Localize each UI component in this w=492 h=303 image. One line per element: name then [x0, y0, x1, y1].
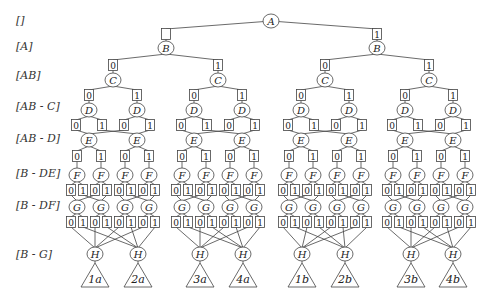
node-label: E — [400, 135, 409, 146]
node-label: E — [189, 135, 198, 146]
value-label: 1 — [420, 218, 426, 228]
value-label: 1 — [414, 152, 420, 162]
edge — [453, 227, 471, 248]
value-label: 0 — [110, 61, 116, 71]
value-label: 0 — [280, 186, 286, 196]
value-label: 1 — [185, 186, 191, 196]
value-label: 1 — [209, 186, 215, 196]
node-label: E — [84, 135, 93, 146]
value-label: 1 — [340, 218, 346, 228]
value-label: 0 — [227, 152, 233, 162]
node-label: F — [413, 170, 422, 181]
value-label: 1 — [257, 218, 263, 228]
value-label: 1 — [358, 152, 364, 162]
node-label: H — [90, 249, 100, 260]
value-label: 0 — [432, 218, 438, 228]
leaf-label: 2a — [130, 273, 145, 286]
value-label: 0 — [438, 152, 444, 162]
value-label: 1 — [346, 91, 352, 101]
node-label: F — [73, 170, 82, 181]
node-label: D — [400, 105, 409, 116]
value-label: 1 — [233, 186, 239, 196]
value-label: 1 — [203, 152, 209, 162]
leaf-label: 3a — [193, 273, 207, 286]
value-label: 0 — [437, 121, 443, 131]
value-label: 1 — [359, 121, 365, 131]
value-label: 1 — [463, 121, 469, 131]
node-label: F — [357, 170, 366, 181]
edge — [200, 227, 248, 248]
node-label: H — [340, 249, 350, 260]
value-label: 0 — [298, 91, 304, 101]
value-label: 1 — [204, 121, 210, 131]
value-label: 1 — [420, 186, 426, 196]
value-label: 1 — [292, 218, 298, 228]
node-label: C — [214, 75, 222, 86]
value-label: 1 — [80, 186, 86, 196]
leaf-label: 2b — [337, 273, 352, 286]
value-label: 0 — [221, 186, 227, 196]
node-label: G — [285, 202, 293, 213]
node-label: D — [448, 105, 457, 116]
edge — [243, 227, 260, 248]
edge — [166, 21, 271, 29]
edge — [377, 54, 429, 60]
value-label: 1 — [364, 218, 370, 228]
node-label: E — [344, 135, 353, 146]
value-label: 0 — [173, 218, 179, 228]
node-label: H — [406, 249, 416, 260]
value-label: 1 — [99, 121, 105, 131]
edge — [325, 54, 377, 60]
value-label: 0 — [384, 218, 390, 228]
tree-diagram: [][A][AB][AB - C][AB - D][B - DE][B - DF… — [0, 0, 492, 303]
value-label: 1 — [185, 218, 191, 228]
value-label: 0 — [286, 152, 292, 162]
value-label: 1 — [310, 152, 316, 162]
node-label: D — [189, 105, 198, 116]
edge — [319, 227, 345, 248]
node-label: G — [389, 202, 397, 213]
value-label: 1 — [415, 121, 421, 131]
node-label: F — [97, 170, 106, 181]
value-label: 1 — [215, 61, 221, 71]
edge — [423, 227, 453, 248]
value-label: 1 — [311, 121, 317, 131]
value-label: 1 — [340, 186, 346, 196]
node-label: F — [285, 170, 294, 181]
edge — [283, 227, 302, 248]
value-label: 1 — [396, 218, 402, 228]
value-label: 1 — [462, 152, 468, 162]
value-label: 0 — [456, 186, 462, 196]
value-label: 1 — [396, 186, 402, 196]
node-label: B — [161, 43, 169, 54]
value-label: 0 — [352, 186, 358, 196]
edge — [411, 227, 435, 248]
value-label: 0 — [328, 218, 334, 228]
node-label: G — [309, 202, 317, 213]
value-box — [162, 29, 171, 40]
edge — [345, 227, 367, 248]
value-label: 0 — [333, 121, 339, 131]
edge — [212, 227, 243, 248]
value-label: 0 — [68, 218, 74, 228]
value-label: 0 — [140, 186, 146, 196]
node-label: H — [448, 249, 458, 260]
value-label: 1 — [152, 186, 158, 196]
edge — [166, 54, 218, 60]
leaf-label: 4b — [445, 273, 460, 286]
edge — [138, 227, 155, 248]
tree-svg: 1a2a3a4a1b2b3b4bAB1B0C1C0C1C0D1D0D1D0D1D… — [0, 0, 492, 303]
node-label: G — [121, 202, 129, 213]
node-label: G — [357, 202, 365, 213]
node-label: E — [296, 135, 305, 146]
value-label: 1 — [292, 186, 298, 196]
value-label: 1 — [374, 30, 380, 40]
edge — [95, 227, 119, 248]
value-label: 0 — [197, 186, 203, 196]
value-label: 1 — [257, 186, 263, 196]
edge — [95, 227, 143, 248]
node-label: G — [461, 202, 469, 213]
node-label: F — [202, 170, 211, 181]
value-label: 0 — [408, 218, 414, 228]
edge — [236, 227, 243, 248]
